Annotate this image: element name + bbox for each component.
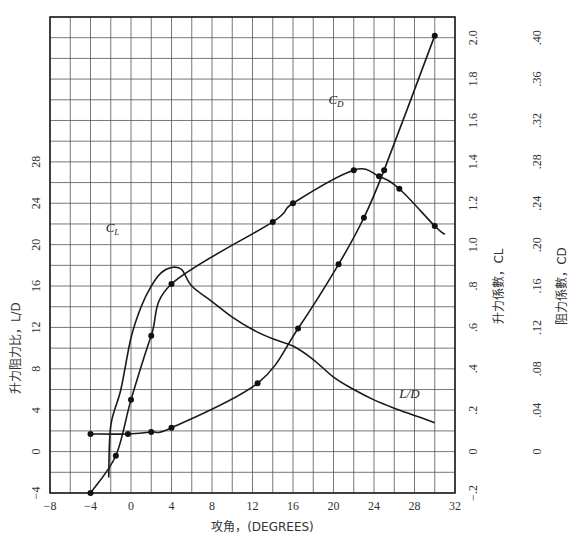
x-tick-label: 0 <box>128 499 134 513</box>
axis-labels: 攻角，(DEGREES)升力阻力比，L/D升力係數，CL阻力係數，CD <box>9 247 569 534</box>
data-point <box>396 186 402 192</box>
cl-tick-label: 1.4 <box>466 154 480 169</box>
data-point <box>169 281 175 287</box>
data-point <box>336 261 342 267</box>
cd-tick-label: .04 <box>530 403 544 418</box>
data-point <box>113 453 119 459</box>
cl-axis-label: 升力係數，CL <box>492 248 506 323</box>
data-point <box>128 397 134 403</box>
left-tick-label: 12 <box>29 321 43 333</box>
curve-label: CD <box>328 92 344 109</box>
data-point <box>148 429 154 435</box>
left-tick-label: 16 <box>29 280 43 292</box>
cd-tick-label: .08 <box>530 361 544 376</box>
data-point <box>255 380 261 386</box>
cl-tick-label: 0 <box>466 449 480 455</box>
data-point <box>432 33 438 39</box>
cd-tick-label: .36 <box>530 72 544 87</box>
cd-tick-label: .32 <box>530 113 544 128</box>
x-tick-label: 32 <box>449 499 461 513</box>
x-axis-label: 攻角，(DEGREES) <box>211 520 314 534</box>
cl-tick-label: 2.0 <box>466 30 480 45</box>
cl-tick-label: .6 <box>466 323 480 332</box>
curve-ld <box>109 267 435 477</box>
cl-tick-label: 1.0 <box>466 237 480 252</box>
cl-tick-label: .4 <box>466 364 480 373</box>
cl-tick-label: 1.6 <box>466 113 480 128</box>
curve-cd <box>91 36 435 435</box>
cd-tick-label: 0 <box>530 449 544 455</box>
cd-tick-label: .24 <box>530 196 544 211</box>
aerodynamic-coefficients-chart: CLCDL/D −8−4048121620242832−404812162024… <box>0 0 575 543</box>
curve-label: L/D <box>398 386 420 401</box>
data-point <box>169 425 175 431</box>
x-tick-label: −4 <box>84 499 97 513</box>
cl-tick-label: .8 <box>466 282 480 291</box>
data-point <box>88 431 94 437</box>
x-tick-label: 12 <box>247 499 259 513</box>
data-point <box>381 167 387 173</box>
data-point <box>361 215 367 221</box>
left-axis-label: 升力阻力比，L/D <box>9 302 23 394</box>
curve-label: CL <box>106 220 120 237</box>
data-point <box>270 219 276 225</box>
left-tick-label: 0 <box>29 449 43 455</box>
cl-tick-label: −.2 <box>466 485 480 501</box>
left-tick-label: 24 <box>29 197 43 209</box>
left-tick-label: −4 <box>29 487 43 500</box>
data-point <box>351 167 357 173</box>
x-tick-label: 24 <box>368 499 380 513</box>
curves: CLCDL/D <box>88 33 445 496</box>
left-tick-label: 20 <box>29 239 43 251</box>
curve-cl <box>91 169 445 493</box>
cl-tick-label: .2 <box>466 406 480 415</box>
cl-tick-label: 1.2 <box>466 196 480 211</box>
cd-tick-label: .12 <box>530 320 544 335</box>
data-point <box>432 223 438 229</box>
left-tick-label: 4 <box>29 407 43 413</box>
data-point <box>88 490 94 496</box>
left-tick-label: 28 <box>29 156 43 168</box>
cd-tick-label: .16 <box>530 279 544 294</box>
x-tick-label: 20 <box>328 499 340 513</box>
tick-labels: −8−4048121620242832−40481216202428−.20.2… <box>29 30 544 513</box>
left-tick-label: 8 <box>29 366 43 372</box>
cd-tick-label: .40 <box>530 30 544 45</box>
x-tick-label: 16 <box>287 499 299 513</box>
cd-tick-label: .20 <box>530 237 544 252</box>
data-point <box>125 431 131 437</box>
data-point <box>290 200 296 206</box>
x-tick-label: 28 <box>409 499 421 513</box>
x-tick-label: −8 <box>44 499 57 513</box>
x-tick-label: 4 <box>169 499 175 513</box>
cl-tick-label: 1.8 <box>466 72 480 87</box>
data-point <box>295 325 301 331</box>
cd-axis-label: 阻力係數，CD <box>555 247 569 325</box>
cd-tick-label: .28 <box>530 154 544 169</box>
data-point <box>148 333 154 339</box>
x-tick-label: 8 <box>209 499 215 513</box>
